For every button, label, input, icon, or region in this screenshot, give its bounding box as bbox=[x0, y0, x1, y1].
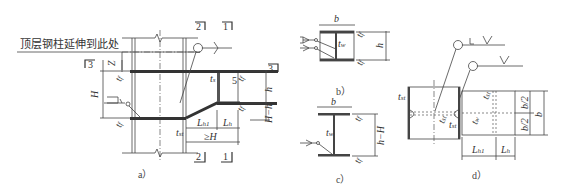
top-beam-flange bbox=[130, 70, 278, 73]
caption-d: d） bbox=[472, 170, 487, 181]
steel-joint-diagram: 顶层钢柱延伸到此处 bbox=[0, 0, 563, 193]
svg-text:tf: tf bbox=[354, 29, 366, 38]
dim-b-half-bottom: b/2 bbox=[519, 118, 530, 131]
dim-tst-left: tst bbox=[398, 91, 407, 102]
dim-Lh: Lh bbox=[500, 144, 511, 155]
dim-tst-right: tst bbox=[449, 119, 458, 130]
dim-tf-bottom: tf bbox=[113, 119, 125, 128]
lower-diaphragm bbox=[130, 117, 186, 120]
dim-tw: tw bbox=[469, 115, 482, 126]
svg-text:3: 3 bbox=[88, 59, 93, 70]
mark-5: 5 bbox=[232, 75, 237, 86]
dim-b: b bbox=[331, 96, 336, 107]
dim-H-minus-h: H−h bbox=[263, 104, 274, 124]
top-column-note: 顶层钢柱延伸到此处 bbox=[20, 37, 119, 51]
dim-h: h bbox=[374, 43, 385, 48]
figure-a: 顶层钢柱延伸到此处 bbox=[17, 21, 278, 180]
dim-b-half-top: b/2 bbox=[519, 96, 530, 109]
svg-text:tf: tf bbox=[354, 57, 366, 66]
stiffener bbox=[217, 73, 220, 103]
svg-text:2: 2 bbox=[196, 21, 201, 32]
dim-h-minus-H: h−H bbox=[375, 125, 386, 145]
dim-h: h bbox=[263, 87, 274, 92]
dim-b: b bbox=[533, 112, 544, 117]
c-bottom-flange bbox=[318, 154, 350, 157]
svg-text:tf: tf bbox=[352, 155, 364, 164]
svg-text:3: 3 bbox=[268, 63, 273, 74]
haunch-flange bbox=[186, 103, 240, 118]
dim-tw: tw bbox=[338, 38, 346, 49]
figure-d: b/2 b/2 b Lh1 Lh tst tst tst tw tst d） bbox=[398, 36, 548, 181]
figure-c: b h−H tw tf tf c） bbox=[300, 96, 386, 185]
svg-text:2: 2 bbox=[196, 151, 201, 162]
caption-a: a） bbox=[138, 169, 152, 180]
svg-text:1: 1 bbox=[223, 151, 228, 162]
dim-Lh1: Lh1 bbox=[471, 144, 485, 155]
caption-b: b） bbox=[336, 86, 351, 97]
dim-Lh: Lh bbox=[222, 117, 233, 128]
figure-b: b h tw tf tf b） bbox=[300, 13, 390, 97]
dim-b: b bbox=[334, 13, 339, 24]
dim-Lh1: Lh1 bbox=[196, 117, 210, 128]
caption-c: c） bbox=[336, 174, 350, 185]
dim-tw: tw bbox=[326, 127, 334, 138]
dim-tf-top: tf bbox=[113, 73, 125, 82]
dim-ts: ts bbox=[210, 73, 216, 84]
dim-ge-H: ≥H bbox=[204, 131, 217, 142]
svg-text:1: 1 bbox=[223, 21, 228, 32]
dim-z: Z bbox=[106, 60, 117, 66]
svg-text:tf: tf bbox=[352, 113, 364, 122]
dim-H: H bbox=[89, 90, 100, 99]
